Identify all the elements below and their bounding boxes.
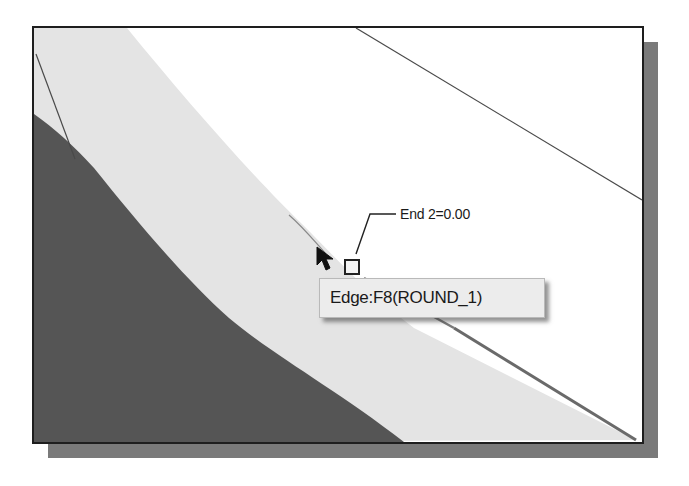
end-parameter-label: End 2=0.00 <box>400 206 470 222</box>
edge-tooltip-text: Edge:F8(ROUND_1) <box>330 288 482 308</box>
graphics-viewport[interactable]: End 2=0.00 Edge:F8(ROUND_1) <box>32 26 644 444</box>
edge-tooltip: Edge:F8(ROUND_1) <box>319 278 545 318</box>
callout-leader-line <box>356 214 396 254</box>
model-geometry <box>34 28 642 442</box>
arrow-pointer-icon <box>316 246 336 274</box>
square-end-marker-icon[interactable] <box>344 259 360 275</box>
edge-line-top-right <box>356 28 642 200</box>
